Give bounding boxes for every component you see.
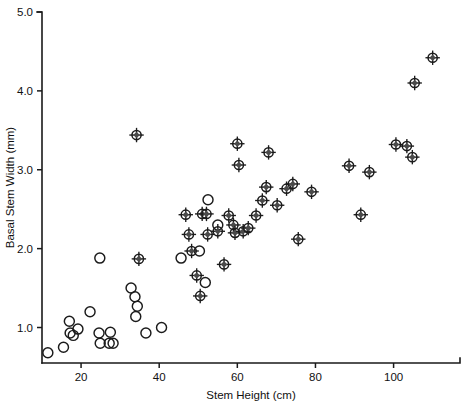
crosshair-center-fill [221, 261, 228, 268]
crosshair-center-fill [409, 154, 416, 161]
data-point-crosshair [425, 51, 439, 65]
open-circle-marker [85, 307, 95, 317]
y-tick-label: 2.0 [17, 243, 33, 255]
crosshair-center-fill [346, 162, 353, 169]
crosshair-center-fill [133, 132, 140, 139]
y-axis-title: Basal Stem Width (mm) [4, 127, 16, 249]
x-axis-line [42, 358, 460, 363]
x-tick-label: 40 [153, 371, 166, 383]
open-circle-marker [200, 278, 210, 288]
data-point-crosshair [193, 289, 207, 303]
data-point-open [203, 195, 213, 205]
data-point-crosshair [255, 193, 269, 207]
open-circle-marker [130, 292, 140, 302]
data-point-crosshair [304, 185, 318, 199]
data-point-crosshair [132, 252, 146, 266]
y-tick-label: 5.0 [17, 6, 33, 18]
crosshair-center-fill [274, 202, 281, 209]
data-point-open [105, 327, 115, 337]
x-tick-label: 100 [384, 371, 403, 383]
y-tick-label: 1.0 [17, 322, 33, 334]
crosshair-center-fill [204, 231, 211, 238]
crosshair-center-fill [203, 211, 210, 218]
data-point-crosshair [259, 180, 273, 194]
axes-group [37, 12, 460, 363]
data-point-open [200, 278, 210, 288]
crosshair-center-fill [263, 184, 270, 191]
scatter-plot-figure: 1.02.03.04.05.020406080100 Stem Height (… [0, 0, 467, 402]
crosshair-center-fill [265, 149, 272, 156]
data-point-crosshair [389, 137, 403, 151]
data-point-open [94, 328, 104, 338]
ticks-group [37, 12, 394, 368]
crosshair-center-fill [357, 211, 364, 218]
crosshair-center-fill [225, 212, 232, 219]
crosshair-center-fill [245, 225, 252, 232]
crosshair-center-fill [411, 80, 418, 87]
y-tick-label: 4.0 [17, 85, 33, 97]
crosshair-center-fill [366, 169, 373, 176]
data-point-open [176, 253, 186, 263]
crosshair-center-fill [236, 162, 243, 169]
data-point-crosshair [182, 227, 196, 241]
crosshair-center-fill [429, 54, 436, 61]
data-point-crosshair [179, 208, 193, 222]
open-circle-marker [131, 311, 141, 321]
open-circle-marker [132, 301, 142, 311]
crosshair-center-fill [136, 256, 143, 263]
crosshair-center-fill [253, 212, 260, 219]
data-point-open [95, 253, 105, 263]
crosshair-center-fill [182, 211, 189, 218]
open-circle-marker [43, 348, 53, 358]
data-point-open [58, 342, 68, 352]
y-tick-label: 3.0 [17, 164, 33, 176]
open-circle-marker [105, 327, 115, 337]
data-point-crosshair [129, 128, 143, 142]
crosshair-center-fill [234, 140, 241, 147]
open-circle-marker [64, 316, 74, 326]
data-point-open [43, 348, 53, 358]
data-markers-group [43, 51, 440, 358]
x-tick-label: 20 [75, 371, 88, 383]
data-point-crosshair [200, 227, 214, 241]
data-point-crosshair [270, 198, 284, 212]
open-circle-marker [203, 195, 213, 205]
open-circle-marker [141, 328, 151, 338]
crosshair-center-fill [186, 231, 193, 238]
crosshair-center-fill [197, 293, 204, 300]
axis-titles-group: Stem Height (cm)Basal Stem Width (mm) [4, 127, 296, 401]
data-point-crosshair [230, 137, 244, 151]
data-point-crosshair [217, 257, 231, 271]
data-point-crosshair [291, 232, 305, 246]
open-circle-marker [58, 342, 68, 352]
plot-canvas: 1.02.03.04.05.020406080100 Stem Height (… [0, 0, 467, 402]
crosshair-center-fill [230, 222, 237, 229]
data-point-crosshair [342, 159, 356, 173]
data-point-open [85, 307, 95, 317]
data-point-crosshair [232, 158, 246, 172]
open-circle-marker [176, 253, 186, 263]
crosshair-center-fill [295, 236, 302, 243]
open-circle-marker [157, 323, 167, 333]
data-point-open [131, 311, 141, 321]
data-point-crosshair [407, 76, 421, 90]
data-point-open [64, 316, 74, 326]
data-point-open [132, 301, 142, 311]
data-point-open [141, 328, 151, 338]
crosshair-center-fill [393, 141, 400, 148]
y-axis-line [37, 12, 42, 363]
x-axis-title: Stem Height (cm) [206, 389, 296, 401]
data-point-crosshair [249, 208, 263, 222]
x-tick-label: 80 [309, 371, 322, 383]
crosshair-center-fill [188, 248, 195, 255]
data-point-open [157, 323, 167, 333]
open-circle-marker [94, 328, 104, 338]
open-circle-marker [95, 253, 105, 263]
x-tick-label: 60 [231, 371, 244, 383]
data-point-open [130, 292, 140, 302]
data-point-crosshair [261, 145, 275, 159]
crosshair-center-fill [308, 189, 315, 196]
crosshair-center-fill [404, 143, 411, 150]
data-point-crosshair [184, 244, 198, 258]
data-point-crosshair [362, 165, 376, 179]
